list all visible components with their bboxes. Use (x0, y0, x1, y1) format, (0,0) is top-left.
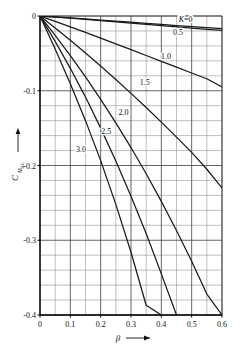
curve-label-k30: 3.0 (76, 145, 86, 154)
x-tick-label: 0 (38, 320, 42, 329)
y-axis-title-main: C (10, 174, 20, 181)
curve-label-k20: 2.0 (118, 108, 128, 117)
y-tick-label: -0.4 (23, 311, 36, 320)
x-tick-label: 0.6 (217, 320, 227, 329)
y-tick-label: -0.3 (23, 236, 36, 245)
y-tick-label: -0.1 (23, 87, 36, 96)
x-tick-label: 0.5 (187, 320, 197, 329)
curve-label-k10: 1.0 (161, 52, 171, 61)
curve-label-k25: 2.5 (101, 127, 111, 136)
curve-label-k15: 1.5 (140, 78, 150, 87)
chart-container: 00.10.20.30.40.50.6 0-0.1-0.2-0.3-0.4 K=… (0, 0, 240, 360)
x-axis-title-text: β (115, 333, 121, 343)
curve-label-k05: 0.5 (173, 28, 183, 37)
curve-label-k0: K=0 (178, 15, 193, 24)
x-tick-label: 0.4 (156, 320, 166, 329)
x-tick-label: 0.1 (65, 320, 75, 329)
x-tick-label: 0.2 (96, 320, 106, 329)
chart-svg: 00.10.20.30.40.50.6 0-0.1-0.2-0.3-0.4 K=… (0, 0, 240, 360)
y-tick-label: -0.2 (23, 162, 36, 171)
x-tick-label: 0.3 (126, 320, 136, 329)
y-tick-label: 0 (32, 12, 36, 21)
chart-background (0, 0, 240, 360)
y-axis-title-sub2: a.c. (19, 161, 25, 168)
